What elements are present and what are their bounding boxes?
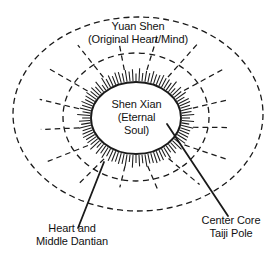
radial-spoke (148, 166, 159, 192)
label-center-core-line2: Taiji Pole (186, 227, 276, 240)
corona-tick (148, 73, 150, 82)
diagram-canvas: Yuan Shen (Original Heart/Mind) Shen Xia… (0, 0, 277, 261)
corona-tick (168, 144, 175, 153)
corona-tick (102, 85, 106, 90)
label-shen-xian-line1: Shen Xian (92, 98, 181, 111)
corona-tick (154, 152, 158, 163)
corona-tick (115, 152, 118, 161)
corona-tick (82, 105, 91, 108)
label-yuan-shen-line1: Yuan Shen (58, 20, 218, 33)
radial-spoke (47, 67, 88, 91)
corona-tick (118, 153, 121, 164)
label-shen-xian-line3: Soul) (92, 124, 181, 137)
corona-tick (91, 88, 99, 96)
corona-tick (112, 76, 115, 85)
corona-tick (77, 115, 90, 116)
corona-tick (79, 125, 91, 128)
corona-tick (139, 155, 140, 166)
radial-spoke (120, 166, 125, 187)
radial-spoke (41, 128, 79, 130)
corona-tick (164, 147, 171, 158)
radial-spoke (48, 145, 88, 161)
corona-tick (96, 144, 104, 153)
corona-tick (182, 115, 194, 116)
corona-tick (129, 155, 130, 162)
corona-tick (172, 87, 181, 95)
corona-tick (142, 155, 143, 164)
corona-tick (81, 123, 90, 125)
corona-tick (145, 71, 147, 82)
corona-tick (182, 123, 190, 124)
radial-spoke (168, 43, 199, 77)
corona-tick (181, 108, 192, 111)
corona-tick (145, 154, 147, 166)
corona-tick (83, 112, 91, 113)
corona-tick (132, 155, 133, 168)
radial-spoke (40, 99, 79, 108)
corona-tick (182, 120, 194, 121)
radial-spoke (193, 99, 230, 108)
label-heart-and-middle-dantian: Heart and Middle Dantian (12, 222, 132, 248)
corona-tick (180, 105, 190, 108)
corona-tick (79, 120, 90, 121)
corona-tick (139, 68, 140, 81)
corona-tick (154, 74, 157, 83)
corona-tick (129, 72, 130, 82)
corona-tick (125, 154, 127, 166)
corona-tick (132, 69, 133, 81)
leader-line-heart-dantian (78, 162, 104, 228)
corona-tick (182, 112, 192, 114)
corona-tick (151, 71, 154, 83)
radial-spoke (184, 145, 226, 159)
corona-tick (142, 73, 143, 81)
corona-tick (168, 82, 176, 92)
corona-tick (118, 72, 121, 83)
corona-tick (156, 75, 160, 85)
radial-spoke (184, 68, 225, 90)
corona-tick (102, 78, 108, 89)
corona-tick (181, 125, 193, 128)
label-heart-dantian-line2: Middle Dantian (12, 235, 132, 248)
label-shen-xian-line2: (Eternal (92, 111, 181, 124)
corona-tick (122, 154, 124, 164)
label-yuan-shen-line2: (Original Heart/Mind) (58, 33, 218, 46)
corona-tick (83, 128, 92, 131)
label-center-core-taiji-pole: Center Core Taiji Pole (186, 214, 276, 240)
corona-tick (90, 141, 99, 150)
label-yuan-shen: Yuan Shen (Original Heart/Mind) (58, 20, 218, 46)
corona-tick (148, 154, 150, 164)
label-shen-xian: Shen Xian (Eternal Soul) (92, 98, 181, 137)
corona-tick (96, 82, 104, 92)
label-center-core-line1: Center Core (186, 214, 276, 227)
corona-tick (115, 73, 119, 84)
corona-tick (151, 153, 154, 163)
corona-tick (80, 108, 91, 111)
corona-tick (125, 70, 127, 82)
corona-tick (122, 73, 124, 82)
label-heart-dantian-line1: Heart and (12, 222, 132, 235)
